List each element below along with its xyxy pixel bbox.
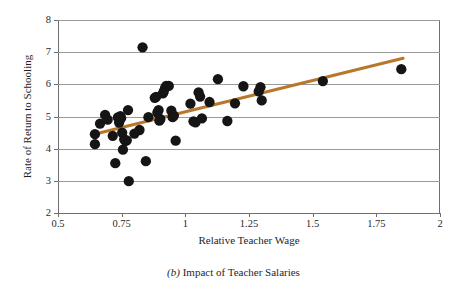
data-point	[124, 176, 134, 186]
data-point	[110, 158, 120, 168]
x-tick-label-0.75: 0.75	[112, 219, 130, 230]
y-axis-label: Rate of Return to Schooling	[18, 20, 36, 213]
y-tick-label-4: 4	[46, 143, 51, 154]
x-tick-label-2: 2	[437, 219, 442, 230]
y-tick-label-5: 5	[46, 111, 51, 122]
x-tick-mark-2	[440, 213, 441, 217]
data-point	[197, 113, 207, 123]
x-tick-label-1.25: 1.25	[240, 219, 258, 230]
x-tick-mark-0.5	[58, 213, 59, 217]
data-point	[204, 97, 214, 107]
data-point	[143, 112, 153, 122]
data-point	[185, 98, 195, 108]
caption-text: Impact of Teacher Salaries	[183, 266, 300, 278]
x-tick-mark-1.75	[376, 213, 377, 217]
data-point	[141, 156, 151, 166]
data-point	[90, 139, 100, 149]
data-point	[155, 114, 165, 124]
data-marks	[58, 20, 440, 213]
data-point	[164, 81, 174, 91]
x-tick-label-0.5: 0.5	[51, 219, 64, 230]
figure-container: 2345678 0.50.7511.251.51.752 Relative Te…	[0, 0, 467, 296]
data-point	[255, 82, 265, 92]
data-point	[153, 105, 163, 115]
data-point	[171, 135, 181, 145]
data-point	[103, 115, 113, 125]
data-point	[213, 74, 223, 84]
x-tick-label-1: 1	[183, 219, 188, 230]
x-axis-label: Relative Teacher Wage	[58, 234, 440, 246]
figure-caption: (b) Impact of Teacher Salaries	[0, 266, 467, 278]
data-point	[123, 105, 133, 115]
data-point	[118, 144, 128, 154]
y-tick-label-6: 6	[46, 79, 51, 90]
x-tick-mark-0.75	[122, 213, 123, 217]
data-point	[116, 113, 126, 123]
y-tick-label-8: 8	[46, 15, 51, 26]
data-point	[396, 64, 406, 74]
x-tick-label-1.75: 1.75	[367, 219, 385, 230]
x-tick-mark-1.5	[313, 213, 314, 217]
data-point	[238, 81, 248, 91]
data-point	[195, 91, 205, 101]
data-point	[222, 116, 232, 126]
data-point	[134, 125, 144, 135]
data-point	[137, 42, 147, 52]
x-tick-label-1.5: 1.5	[306, 219, 319, 230]
data-point	[108, 131, 118, 141]
x-tick-mark-1.25	[249, 213, 250, 217]
data-point	[257, 95, 267, 105]
scatter-points	[90, 42, 407, 186]
y-tick-label-3: 3	[46, 176, 51, 187]
x-tick-mark-1	[185, 213, 186, 217]
data-point	[90, 129, 100, 139]
data-point	[169, 110, 179, 120]
data-point	[230, 98, 240, 108]
data-point	[318, 76, 328, 86]
y-tick-label-2: 2	[46, 208, 51, 219]
plot-area: 2345678 0.50.7511.251.51.752	[58, 20, 440, 213]
y-tick-label-7: 7	[46, 47, 51, 58]
trend-line	[93, 58, 403, 134]
caption-letter: (b)	[167, 266, 180, 278]
